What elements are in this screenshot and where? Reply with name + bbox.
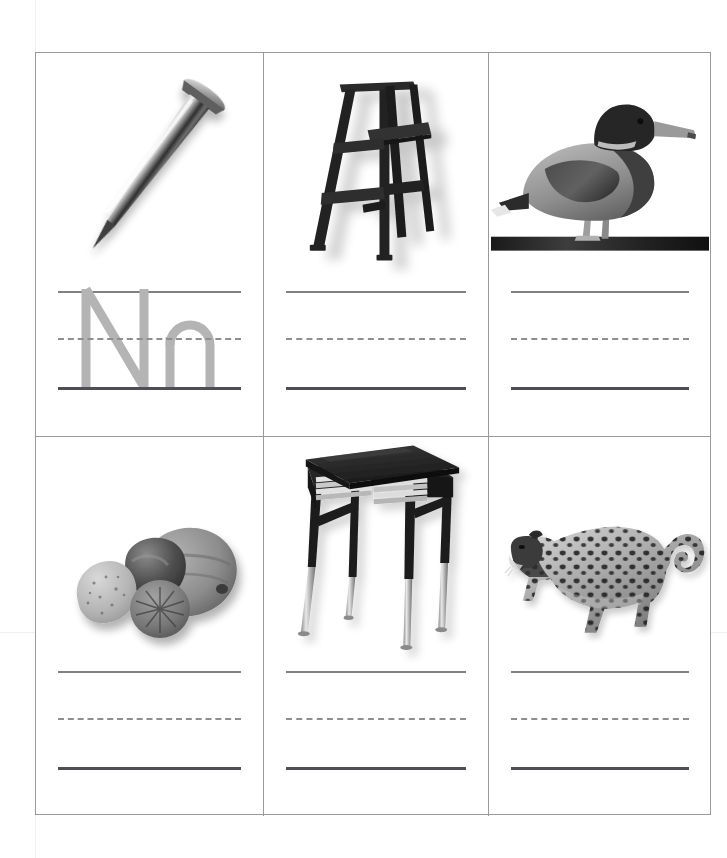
worksheet-cell-duck <box>488 53 711 436</box>
worksheet-grid <box>35 52 711 815</box>
writing-lines-nail <box>36 291 263 436</box>
worksheet-cell-leopard <box>488 436 711 816</box>
writing-lines-ladder <box>264 291 488 436</box>
ladder-icon <box>264 53 488 291</box>
writing-line-dashed-middle <box>286 338 466 340</box>
writing-line-top <box>511 671 689 673</box>
writing-line-baseline <box>58 387 241 390</box>
desk-icon <box>264 437 488 675</box>
writing-line-dashed-middle <box>286 718 466 720</box>
duck-perch <box>491 237 709 251</box>
writing-line-baseline <box>511 767 689 770</box>
writing-line-dashed-middle <box>511 338 689 340</box>
worksheet-cell-ladder <box>263 53 488 436</box>
writing-line-baseline <box>58 767 241 770</box>
leopard-icon <box>489 437 711 675</box>
worksheet-cell-nail <box>36 53 263 436</box>
picture-area-duck <box>489 53 711 291</box>
picture-area-desk <box>264 437 488 675</box>
writing-line-top <box>286 671 466 673</box>
writing-line-top <box>286 291 466 293</box>
picture-area-nuts <box>36 437 263 675</box>
writing-line-dashed-middle <box>58 338 241 340</box>
writing-lines-nuts <box>36 671 263 816</box>
writing-lines-leopard <box>489 671 711 816</box>
writing-lines-duck <box>489 291 711 436</box>
writing-line-baseline <box>511 387 689 390</box>
picture-area-leopard <box>489 437 711 675</box>
writing-line-top <box>58 671 241 673</box>
worksheet-cell-nuts <box>36 436 263 816</box>
nuts-icon <box>36 437 263 675</box>
writing-lines-desk <box>264 671 488 816</box>
writing-line-dashed-middle <box>511 718 689 720</box>
nail-icon <box>36 53 263 291</box>
picture-area-ladder <box>264 53 488 291</box>
picture-area-nail <box>36 53 263 291</box>
writing-line-dashed-middle <box>58 718 241 720</box>
writing-line-top <box>511 291 689 293</box>
worksheet-cell-desk <box>263 436 488 816</box>
writing-line-baseline <box>286 387 466 390</box>
writing-line-baseline <box>286 767 466 770</box>
duck-icon <box>489 53 711 291</box>
